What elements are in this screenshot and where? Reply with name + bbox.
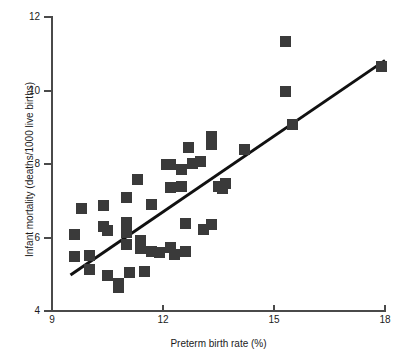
data-point <box>287 119 298 130</box>
trendline-segment <box>71 60 386 275</box>
data-point <box>102 270 113 281</box>
x-tick-label: 12 <box>148 315 178 325</box>
data-point <box>124 267 135 278</box>
y-tick-mark <box>44 16 51 18</box>
data-point <box>280 86 291 97</box>
data-point <box>165 182 176 193</box>
data-point <box>183 142 194 153</box>
x-tick-mark <box>384 305 386 312</box>
x-tick-label: 15 <box>259 315 289 325</box>
data-point <box>169 249 180 260</box>
data-point <box>220 178 231 189</box>
regression-trendline <box>0 0 402 361</box>
data-point <box>239 144 250 155</box>
data-point <box>113 282 124 293</box>
data-point <box>121 192 132 203</box>
data-point <box>176 164 187 175</box>
data-point <box>139 266 150 277</box>
y-axis-line <box>51 16 53 312</box>
x-axis-line <box>51 310 386 312</box>
data-point <box>84 250 95 261</box>
x-tick-label: 9 <box>37 315 67 325</box>
data-point <box>146 199 157 210</box>
x-axis-title: Preterm birth rate (%) <box>51 338 386 349</box>
data-point <box>376 61 387 72</box>
data-point <box>180 218 191 229</box>
data-point <box>135 243 146 254</box>
y-tick-label: 12 <box>0 12 40 22</box>
data-point <box>76 203 87 214</box>
y-tick-mark <box>44 163 51 165</box>
data-point <box>180 246 191 257</box>
data-point <box>102 225 113 236</box>
y-tick-mark <box>44 90 51 92</box>
data-point <box>98 200 109 211</box>
data-point <box>165 159 176 170</box>
data-point <box>121 227 132 238</box>
y-tick-mark <box>44 237 51 239</box>
data-point <box>121 239 132 250</box>
x-tick-mark <box>162 305 164 312</box>
x-tick-mark <box>51 305 53 312</box>
data-point <box>206 219 217 230</box>
data-point <box>280 36 291 47</box>
y-tick-mark <box>44 310 51 312</box>
data-point <box>69 229 80 240</box>
data-point <box>176 181 187 192</box>
x-tick-label: 18 <box>370 315 400 325</box>
data-point <box>84 264 95 275</box>
data-point <box>132 174 143 185</box>
data-point <box>206 139 217 150</box>
data-point <box>195 156 206 167</box>
data-point <box>154 247 165 258</box>
scatter-plot-figure: 4681012 9121518 Preterm birth rate (%) I… <box>0 0 402 361</box>
y-axis-title: Infant mortality (deaths/1000 live birth… <box>24 22 35 318</box>
data-point <box>69 251 80 262</box>
x-tick-mark <box>273 305 275 312</box>
